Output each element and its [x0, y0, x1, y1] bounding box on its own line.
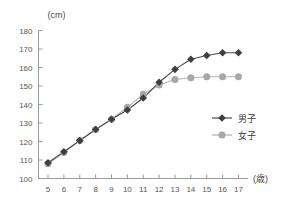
- data-point-男子-8: [92, 126, 100, 134]
- x-axis-unit-label: (歳): [253, 173, 268, 184]
- data-point-男子-14: [187, 55, 195, 63]
- x-tick-label-14: 14: [186, 185, 195, 194]
- y-tick-label-160: 160: [19, 64, 33, 73]
- x-tick-label-8: 8: [93, 185, 98, 194]
- x-tick-label-10: 10: [123, 185, 132, 194]
- x-tick-label-12: 12: [155, 185, 164, 194]
- data-point-女子-16: [219, 73, 226, 80]
- y-tick-label-150: 150: [19, 82, 33, 91]
- x-tick-label-13: 13: [171, 185, 180, 194]
- y-tick-label-130: 130: [19, 119, 33, 128]
- legend-label-男子: 男子: [238, 114, 256, 124]
- x-tick-label-5: 5: [46, 185, 51, 194]
- legend-circle-marker-icon: [219, 132, 226, 139]
- x-tick-label-6: 6: [62, 185, 67, 194]
- chart-canvas: 1001101201301401501601701805678910111213…: [0, 0, 284, 216]
- data-point-男子-15: [203, 52, 211, 60]
- data-point-男子-17: [235, 49, 243, 57]
- y-tick-label-100: 100: [19, 175, 33, 184]
- y-tick-label-120: 120: [19, 138, 33, 147]
- x-tick-label-15: 15: [202, 185, 211, 194]
- x-tick-label-11: 11: [139, 185, 148, 194]
- data-point-女子-14: [187, 74, 194, 81]
- y-tick-label-110: 110: [20, 156, 33, 165]
- x-tick-label-17: 17: [234, 185, 243, 194]
- x-tick-label-7: 7: [78, 185, 83, 194]
- y-tick-label-140: 140: [19, 101, 33, 110]
- series-line-女子: [48, 77, 238, 164]
- y-tick-label-180: 180: [19, 27, 33, 36]
- data-point-女子-15: [203, 73, 210, 80]
- y-axis-unit-label: (cm): [48, 10, 66, 20]
- series-line-男子: [48, 53, 238, 163]
- y-tick-label-170: 170: [19, 45, 33, 54]
- x-tick-label-9: 9: [109, 185, 114, 194]
- data-point-女子-17: [235, 73, 242, 80]
- legend-label-女子: 女子: [238, 130, 256, 141]
- x-tick-label-16: 16: [218, 185, 227, 194]
- legend-diamond-marker-icon: [218, 114, 226, 122]
- height-growth-chart: 1001101201301401501601701805678910111213…: [0, 0, 284, 216]
- data-point-男子-16: [219, 49, 227, 57]
- data-point-女子-13: [171, 76, 178, 83]
